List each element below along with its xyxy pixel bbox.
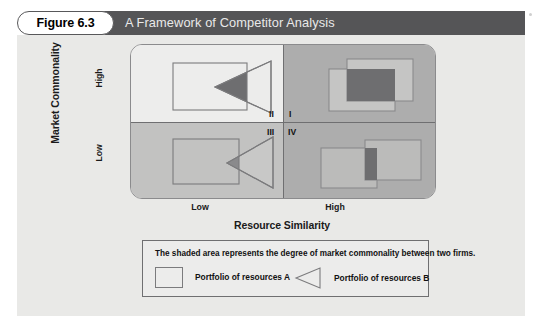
quadrant-i-shapes (327, 57, 427, 115)
figure-page: A Framework of Competitor Analysis Figur… (0, 0, 545, 330)
y-axis-title: Market Commonality (49, 28, 61, 158)
figure-body: Market Commonality High Low Low High Res… (17, 35, 525, 316)
figure-title-bar: A Framework of Competitor Analysis (102, 11, 525, 35)
x-axis-title: Resource Similarity (117, 219, 447, 231)
legend-items: Portfolio of resources A Portfolio of re… (155, 267, 420, 293)
figure-number-badge: Figure 6.3 (17, 11, 114, 35)
corner-speck (529, 13, 532, 16)
competitor-analysis-matrix: II I III IV (130, 44, 436, 199)
quadrant-iii-shapes (171, 135, 281, 191)
legend-label-portfolio-b: Portfolio of resources B (334, 274, 429, 282)
rectangle-swatch-icon (155, 267, 183, 288)
legend-item-portfolio-b: Portfolio of resources B (294, 267, 429, 289)
quadrant-ii-shapes (171, 59, 281, 115)
legend-note: The shaded area represents the degree of… (155, 250, 475, 258)
quadrant-iv-shapes (319, 138, 431, 192)
y-axis-tick-high: High (94, 58, 104, 98)
matrix-vertical-divider (283, 45, 284, 198)
x-axis-tick-low: Low (170, 202, 230, 212)
legend-item-portfolio-a: Portfolio of resources A (155, 267, 290, 288)
y-axis-tick-low: Low (94, 133, 104, 173)
figure-header: A Framework of Competitor Analysis Figur… (17, 11, 525, 35)
legend-label-portfolio-a: Portfolio of resources A (195, 273, 290, 281)
triangle-swatch-icon (294, 267, 322, 289)
legend-box: The shaded area represents the degree of… (142, 240, 429, 297)
quadrant-label-iv: IV (288, 128, 296, 137)
figure-title: A Framework of Competitor Analysis (125, 17, 335, 30)
quadrant-label-iii: III (267, 128, 274, 137)
x-axis-tick-high: High (305, 202, 365, 212)
quadrant-label-ii: II (269, 110, 274, 119)
quadrant-label-i: I (289, 110, 291, 119)
figure-number-label: Figure 6.3 (36, 17, 94, 30)
